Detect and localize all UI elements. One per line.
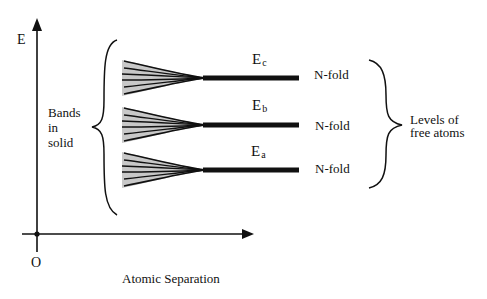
degeneracy-label-b: N-fold bbox=[315, 119, 350, 133]
right-brace bbox=[369, 60, 402, 188]
band-c bbox=[122, 60, 299, 96]
separation-axis bbox=[22, 229, 254, 252]
bands-in-solid-line2: in bbox=[48, 121, 58, 135]
level-subscript: b bbox=[262, 103, 267, 114]
origin-dot bbox=[34, 231, 39, 236]
level-symbol: E bbox=[252, 51, 261, 67]
x-axis-label: Atomic Separation bbox=[122, 272, 220, 286]
left-brace bbox=[92, 40, 117, 215]
level-subscript: a bbox=[261, 149, 265, 160]
free-atoms-line2: free atoms bbox=[410, 126, 465, 140]
bands-in-solid-line1: Bands bbox=[48, 106, 81, 120]
degeneracy-label-a: N-fold bbox=[315, 162, 350, 176]
degeneracy-label-c: N-fold bbox=[314, 68, 349, 82]
level-symbol: E bbox=[251, 143, 260, 159]
bands-in-solid-line3: solid bbox=[48, 136, 73, 150]
level-symbol: E bbox=[252, 97, 261, 113]
y-axis-label: E bbox=[17, 33, 26, 47]
level-subscript: c bbox=[262, 57, 266, 68]
band-b bbox=[122, 107, 299, 143]
energy-axis bbox=[32, 18, 42, 236]
level-label-c: Ec bbox=[252, 52, 267, 68]
level-label-a: Ea bbox=[251, 144, 266, 160]
level-label-b: Eb bbox=[252, 98, 267, 114]
band-a bbox=[122, 152, 299, 188]
y-axis-arrow-icon bbox=[32, 18, 42, 31]
x-axis-arrow-icon bbox=[242, 229, 254, 239]
origin-label: O bbox=[31, 256, 41, 270]
